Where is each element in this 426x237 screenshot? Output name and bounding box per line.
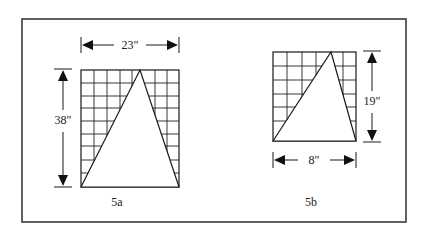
figure-5b: 8" 19" 5b <box>273 51 381 209</box>
height-dimension-5a <box>54 69 72 187</box>
arrow-left-icon <box>82 40 93 50</box>
arrow-up-icon <box>58 70 68 81</box>
caption-5b: 5b <box>305 195 317 209</box>
height-label-5b: 19" <box>364 94 381 108</box>
height-label-5a: 38" <box>55 113 72 127</box>
arrow-right-icon <box>167 40 178 50</box>
arrow-up-icon <box>367 52 377 63</box>
arrow-left-icon <box>274 155 285 165</box>
triangle-5a <box>81 70 179 187</box>
width-label-5b: 8" <box>309 153 320 167</box>
arrow-right-icon <box>344 155 355 165</box>
caption-5a: 5a <box>111 195 123 209</box>
diagram-canvas: 23" 38" 5a 8" 19" 5b <box>0 0 426 237</box>
triangle-5b <box>273 52 356 141</box>
arrow-down-icon <box>367 130 377 141</box>
width-label-5a: 23" <box>122 38 139 52</box>
figure-5a: 23" 38" 5a <box>54 37 179 209</box>
arrow-down-icon <box>58 175 68 186</box>
